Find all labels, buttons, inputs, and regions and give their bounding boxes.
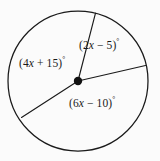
circle-diagram-svg <box>0 0 160 161</box>
angle-label-left-operator: + <box>34 57 47 69</box>
angle-label-left-constant: 15 <box>47 57 59 69</box>
angle-label-upper-right-sector: (2x − 5)° <box>79 39 119 52</box>
angle-label-upper-right-operator: − <box>94 39 107 51</box>
geometry-figure-circle-central-angles: (4x + 15)° (2x − 5)° (6x − 10)° <box>0 0 160 161</box>
center-dot <box>74 77 82 85</box>
degree-icon: ° <box>62 55 65 64</box>
angle-label-lower-right-constant: 10 <box>97 97 109 109</box>
radius-right-line <box>78 66 146 82</box>
degree-icon: ° <box>112 95 115 104</box>
angle-label-left-sector: (4x + 15)° <box>19 57 65 70</box>
degree-icon: ° <box>116 37 119 46</box>
angle-label-lower-right-sector: (6x − 10)° <box>69 97 115 110</box>
angle-label-lower-right-operator: − <box>84 97 97 109</box>
